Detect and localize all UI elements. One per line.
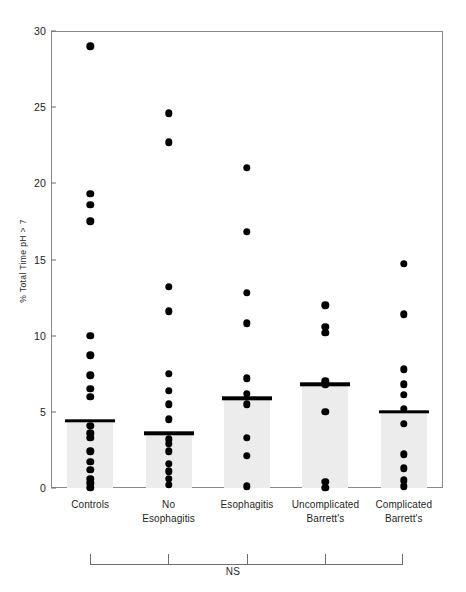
data-point [165,110,172,117]
data-group [286,31,364,488]
data-point [400,483,407,490]
data-point [86,393,93,400]
data-group [129,31,207,488]
data-point [86,218,93,225]
x-axis-label-line: Barrett's [357,512,451,526]
data-point [165,308,172,315]
y-tick-label: 25 [34,101,46,113]
mean-line [300,383,350,386]
x-axis-label-line: Complicated [357,498,451,512]
data-point [86,43,93,50]
data-group [51,31,129,488]
data-point [165,401,172,408]
significance-label: NS [0,566,466,577]
data-point [243,289,250,296]
bracket-tick [402,554,403,565]
y-tick-label: 30 [34,25,46,37]
data-point [243,320,250,327]
y-tick-label: 20 [34,177,46,189]
data-point [165,416,172,423]
data-point [86,352,93,359]
bracket-tick [168,554,169,565]
y-tick-label: 0 [40,482,46,494]
data-point [86,385,93,392]
data-point [400,260,407,267]
y-tick-mark [51,488,56,489]
y-tick-mark [51,411,56,412]
data-point [165,283,172,290]
data-point [243,375,250,382]
data-point [400,365,407,372]
data-point [86,332,93,339]
y-tick-mark [51,259,56,260]
bracket-tick [325,554,326,565]
data-point [243,228,250,235]
data-point [400,381,407,388]
y-tick-label: 15 [34,254,46,266]
mean-line [144,431,194,434]
y-tick-mark [51,335,56,336]
data-point [86,190,93,197]
y-axis-title: % Total Time pH > 7 [18,176,28,346]
data-point [86,201,93,208]
mean-bar [224,398,270,488]
mean-line [222,396,272,399]
data-point [322,329,329,336]
data-group [208,31,286,488]
y-tick-label: 10 [34,330,46,342]
data-point [86,372,93,379]
y-tick-label: 5 [40,406,46,418]
data-point [165,370,172,377]
chart-figure: 051015202530 % Total Time pH > 7 Control… [0,0,466,592]
data-group [365,31,443,488]
x-axis-label: ComplicatedBarrett's [357,498,451,525]
data-point [165,139,172,146]
bracket-tick [247,554,248,565]
data-point [165,387,172,394]
mean-bar [302,384,348,488]
y-tick-mark [51,183,56,184]
data-point [243,164,250,171]
y-tick-mark [51,107,56,108]
data-point [400,391,407,398]
data-point [322,484,329,491]
x-axis-label-line: Esophagitis [121,512,215,526]
data-point [322,301,329,308]
significance-bracket [90,553,403,565]
data-point [400,311,407,318]
data-point [243,483,250,490]
mean-line [65,419,115,422]
mean-line [379,410,429,413]
y-tick-mark [51,31,56,32]
data-point [86,484,93,491]
bracket-tick [90,554,91,565]
